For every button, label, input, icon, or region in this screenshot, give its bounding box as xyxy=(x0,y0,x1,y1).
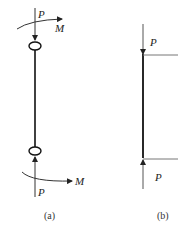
top-moment-label: M xyxy=(54,22,65,34)
diagram-canvas: P M P M (a) P P (b) xyxy=(0,0,192,237)
top-force-label: P xyxy=(37,8,45,20)
bottom-moment-label: M xyxy=(74,175,85,187)
panel-a: P M P M (a) xyxy=(17,8,85,222)
bottom-moment-arrow xyxy=(22,172,72,181)
caption-b: (b) xyxy=(157,210,169,222)
bottom-force-label: P xyxy=(154,171,162,183)
bottom-hinge-icon xyxy=(29,147,41,155)
panel-b: P P (b) xyxy=(143,24,178,222)
top-hinge-icon xyxy=(29,42,41,50)
top-force-label: P xyxy=(149,36,157,48)
caption-a: (a) xyxy=(44,210,55,222)
bottom-force-label: P xyxy=(37,186,45,198)
